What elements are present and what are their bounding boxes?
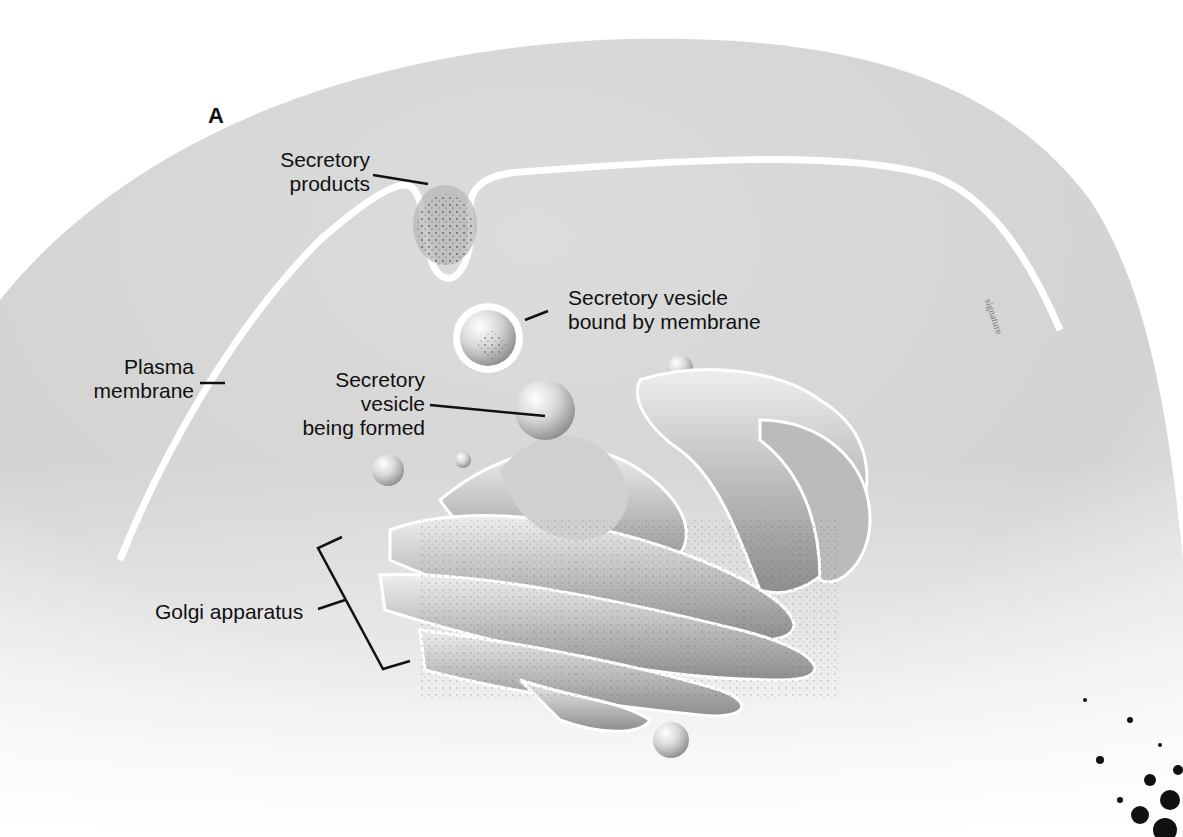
small-vesicle [455,452,471,468]
small-vesicle [372,454,404,486]
label-secretory-products: Secretory products [255,148,370,196]
small-vesicle [653,722,689,758]
label-secretory-vesicle-forming: Secretory vesicle being formed [270,368,425,440]
secretory-vesicle-bound [453,303,523,373]
diagram-illustration: signature [0,0,1183,837]
label-plasma-membrane: Plasma membrane [90,355,194,403]
label-golgi-apparatus: Golgi apparatus [155,600,303,624]
label-secretory-vesicle-bound: Secretory vesicle bound by membrane [568,286,761,334]
golgi-diagram: signature A Secretory products Secretory… [0,0,1183,837]
panel-letter: A [208,103,224,129]
